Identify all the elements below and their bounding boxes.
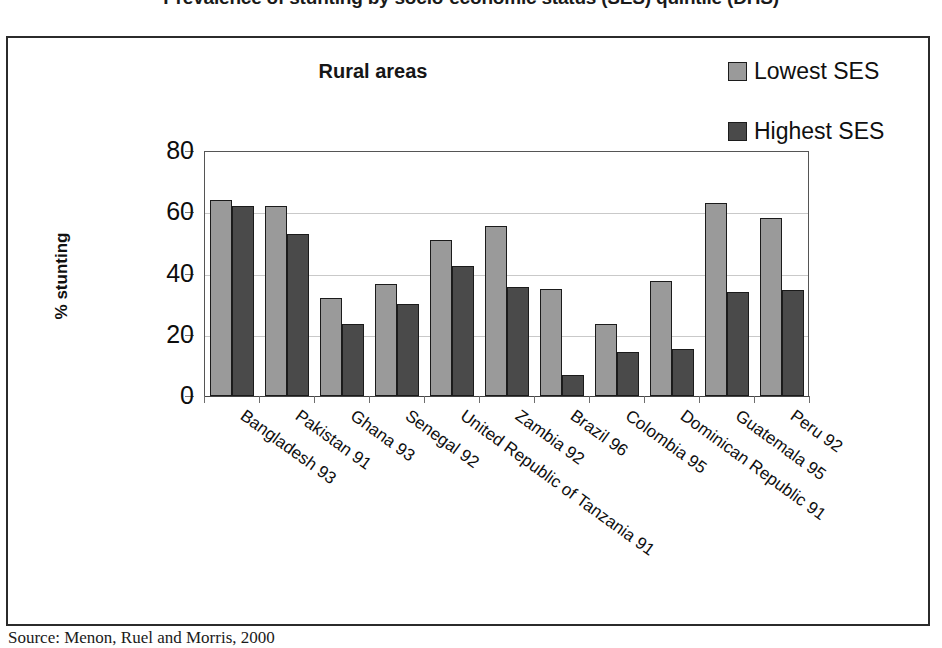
- plot-wrapper: % stunting 806040200 Bangladesh 93Pakist…: [8, 38, 928, 624]
- x-axis-ticks: [204, 396, 809, 404]
- x-tick-mark: [534, 396, 535, 403]
- bar-highest-ses[interactable]: [727, 292, 749, 396]
- bar-group: [705, 151, 749, 396]
- bar-group: [595, 151, 639, 396]
- bar-group: [210, 151, 254, 396]
- x-axis-label: Colombia 95: [621, 406, 633, 422]
- x-tick-mark: [644, 396, 645, 403]
- bar-lowest-ses[interactable]: [595, 324, 617, 396]
- x-axis-label: Guatemala 95: [731, 406, 743, 422]
- y-tick-label: 0: [124, 381, 194, 410]
- bar-group: [650, 151, 694, 396]
- bar-group: [375, 151, 419, 396]
- x-axis-label: Bangladesh 93: [236, 406, 248, 422]
- bar-highest-ses[interactable]: [507, 287, 529, 396]
- x-tick-mark: [589, 396, 590, 403]
- bar-highest-ses[interactable]: [397, 304, 419, 396]
- x-tick-mark: [699, 396, 700, 403]
- x-axis-label: Brazil 96: [566, 406, 578, 422]
- x-tick-mark: [204, 396, 205, 403]
- bar-lowest-ses[interactable]: [320, 298, 342, 396]
- figure-title: Prevalence of stunting by socio-economic…: [0, 0, 942, 9]
- y-tick-label: 40: [124, 259, 194, 288]
- bar-lowest-ses[interactable]: [265, 206, 287, 396]
- bar-lowest-ses[interactable]: [430, 240, 452, 396]
- bar-lowest-ses[interactable]: [485, 226, 507, 396]
- y-axis-title: % stunting: [52, 216, 72, 336]
- bar-highest-ses[interactable]: [232, 206, 254, 396]
- bar-lowest-ses[interactable]: [650, 281, 672, 396]
- y-tick-label: 60: [124, 197, 194, 226]
- bar-highest-ses[interactable]: [287, 234, 309, 396]
- bar-highest-ses[interactable]: [342, 324, 364, 396]
- bar-group: [320, 151, 364, 396]
- bar-group: [760, 151, 804, 396]
- x-axis-labels: Bangladesh 93Pakistan 91Ghana 93Senegal …: [204, 406, 824, 586]
- bar-highest-ses[interactable]: [617, 352, 639, 396]
- bar-highest-ses[interactable]: [782, 290, 804, 396]
- bars-layer: [204, 151, 809, 396]
- x-tick-mark: [369, 396, 370, 403]
- bar-highest-ses[interactable]: [452, 266, 474, 396]
- bar-highest-ses[interactable]: [672, 349, 694, 396]
- bar-lowest-ses[interactable]: [375, 284, 397, 396]
- source-note: Source: Menon, Ruel and Morris, 2000: [8, 628, 275, 648]
- x-tick-mark: [424, 396, 425, 403]
- bar-group: [430, 151, 474, 396]
- x-tick-mark: [754, 396, 755, 403]
- x-axis-label: Ghana 93: [346, 406, 358, 422]
- bar-lowest-ses[interactable]: [760, 218, 782, 396]
- x-axis-label: Zambia 92: [511, 406, 523, 422]
- bar-lowest-ses[interactable]: [540, 289, 562, 396]
- x-tick-mark: [809, 396, 810, 403]
- x-axis-label: Senegal 92: [401, 406, 413, 422]
- bar-group: [540, 151, 584, 396]
- x-tick-mark: [314, 396, 315, 403]
- x-tick-mark: [479, 396, 480, 403]
- x-axis-label: Pakistan 91: [291, 406, 303, 422]
- y-tick-label: 80: [124, 136, 194, 165]
- x-axis-label: United Republic of Tanzania 91: [456, 406, 468, 422]
- y-tick-label: 20: [124, 320, 194, 349]
- x-axis-label: Peru 92: [786, 406, 798, 422]
- bar-group: [485, 151, 529, 396]
- bar-lowest-ses[interactable]: [210, 200, 232, 396]
- bar-lowest-ses[interactable]: [705, 203, 727, 396]
- x-axis-label: Dominican Republic 91: [676, 406, 688, 422]
- y-axis-ticks: 806040200: [114, 151, 194, 396]
- bar-highest-ses[interactable]: [562, 375, 584, 396]
- bar-group: [265, 151, 309, 396]
- chart-frame: Rural areas Lowest SES Highest SES % stu…: [6, 36, 930, 626]
- x-tick-mark: [259, 396, 260, 403]
